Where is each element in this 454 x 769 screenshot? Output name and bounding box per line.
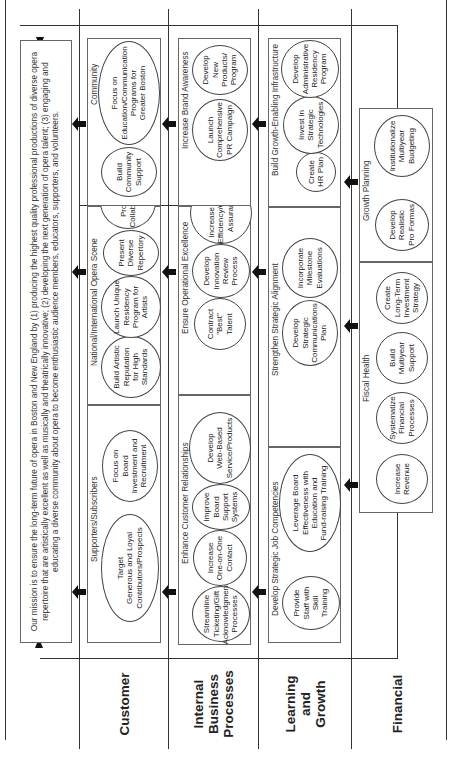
block-arrow-financial-mid xyxy=(344,319,358,333)
objective-multiyear-support: Build Multiyear Support xyxy=(376,332,428,384)
lane-divider-4 xyxy=(351,9,352,749)
group-growth-planning: Growth Planning Develop Realistic Pro Fo… xyxy=(359,108,433,262)
objective-pr-campaign: Launch Comprehensive PR Campaign xyxy=(192,99,248,161)
block-arrow-customer-right xyxy=(72,585,86,599)
group-title: Fiscal Health xyxy=(362,355,371,402)
objective-streamline-ticketing: Streamline Ticketing/Gift Acknowledgment… xyxy=(192,586,250,642)
strategy-map: Our mission is to ensure the long-term f… xyxy=(0,0,454,769)
mission-text: Our mission is to ensure the long-term f… xyxy=(30,51,62,632)
feedback-line-bottom xyxy=(397,25,398,109)
objective-residency-artists: Launch Unique Residency Program for Arti… xyxy=(101,276,161,338)
objective-multiyear-budgeting: Institutionalize Multiyear Budgeting xyxy=(374,115,430,177)
lane-label-financial: Financial xyxy=(352,659,442,749)
group-supporters-subscribers: Supporters/Subscribers Target Generous a… xyxy=(87,405,161,643)
objective-board-support-systems: Improve Board Support Systems xyxy=(192,484,250,530)
objective-milestone-evaluations: Incorporate Milestone Evaluations xyxy=(282,238,338,298)
objective-target-contributors: Target Generous and Loyal Contributors/P… xyxy=(101,514,159,622)
objective-board-investment: Focus on Board Investment and Recruitmen… xyxy=(102,430,158,502)
block-arrow-learning-mid xyxy=(252,265,266,279)
group-customer-relationships: Enhance Customer Relationships Streamlin… xyxy=(178,395,251,645)
objective-communications-plan: Develop Strategic Communications Plan xyxy=(282,300,338,366)
block-arrow-internal-left xyxy=(162,117,176,131)
objective-strategic-technologies: Invest in Strategic Technologies xyxy=(283,96,339,154)
objective-one-on-one-contact: Increase One-on-One Contact xyxy=(193,530,247,586)
group-title: National/International Opera Scene xyxy=(90,238,99,366)
group-title: Build Growth-Enabling Infrastructure xyxy=(271,44,280,176)
group-community: Community Build Community Support Focus … xyxy=(87,38,161,206)
objective-community-support: Build Community Support xyxy=(101,147,157,197)
objective-education-programs: Focus on Education/Communication Program… xyxy=(98,41,160,145)
block-arrow-financial-right xyxy=(344,478,358,492)
objective-admin-residency: Develop Administrative Residency Program xyxy=(281,40,339,98)
group-title: Enhance Customer Relationships xyxy=(181,442,190,564)
feedback-line-right xyxy=(40,25,397,26)
group-strategic-alignment: Strengthen Strategic Alignment Develop S… xyxy=(268,207,341,447)
group-national-opera-scene: National/International Opera Scene Build… xyxy=(87,206,161,405)
frame-top-line xyxy=(5,0,6,740)
objective-increase-revenue: Increase Revenue xyxy=(376,454,428,504)
group-growth-infrastructure: Build Growth-Enabling Infrastructure Cre… xyxy=(268,38,341,207)
objective-diverse-repertory: Present Diverse Repertory xyxy=(103,230,159,276)
lane-label-customer: Customer xyxy=(80,659,168,749)
group-title: Strengthen Strategic Alignment xyxy=(271,263,280,376)
block-arrow-learning-left xyxy=(252,117,266,131)
objective-staff-training: Provide Staff with Skill Training xyxy=(282,576,340,630)
objective-artistic-reputation: Build Artistic Reputation for High Stand… xyxy=(101,336,161,398)
group-title: Increase Brand Awareness xyxy=(181,51,190,149)
group-job-competencies: Develop Strategic Job Competencies Provi… xyxy=(268,447,341,643)
objective-new-products: Develop New Products/ Program xyxy=(192,45,248,95)
group-operational-excellence: Ensure Operational Excellence Contract "… xyxy=(178,206,251,395)
lane-label-internal: Internal Business Processes xyxy=(169,659,258,749)
group-title: Supporters/Subscribers xyxy=(90,476,99,562)
block-arrow-learning-right xyxy=(252,585,266,599)
block-arrow-customer-left xyxy=(72,117,86,131)
objective-investment-strategy: Create Long-Term Investment Strategy xyxy=(376,272,428,324)
block-arrow-financial-left xyxy=(344,175,358,189)
group-title: Ensure Operational Excellence xyxy=(181,222,190,334)
lane-label-learning: Learning and Growth xyxy=(259,659,351,749)
block-arrow-customer-mid xyxy=(72,265,86,279)
objective-hr-plan: Create HR Plan xyxy=(296,152,336,192)
objective-board-effectiveness: Leverage Board Effectiveness with Educat… xyxy=(279,454,341,552)
objective-systematize-processes: Systematize Financial Processes xyxy=(376,392,428,444)
group-fiscal-health: Fiscal Health Increase Revenue Systemati… xyxy=(359,262,433,513)
objective-innovation-review: Develop Innovation Review Process xyxy=(192,244,250,298)
block-arrow-internal-right xyxy=(162,585,176,599)
frame-bottom-line xyxy=(446,0,447,740)
block-arrow-internal-mid xyxy=(162,265,176,279)
group-title: Growth Planning xyxy=(362,160,371,221)
objective-pro-formas: Develop Realistic Pro Formas xyxy=(375,199,429,251)
objective-contract-talent: Contract "Best" Talent xyxy=(194,298,246,350)
mission-statement: Our mission is to ensure the long-term f… xyxy=(20,40,72,643)
feedback-line-right-top xyxy=(20,25,40,26)
group-brand-awareness: Increase Brand Awareness Launch Comprehe… xyxy=(178,38,251,206)
objective-web-based-services: Develop Web-Based Service/Products xyxy=(189,412,251,484)
